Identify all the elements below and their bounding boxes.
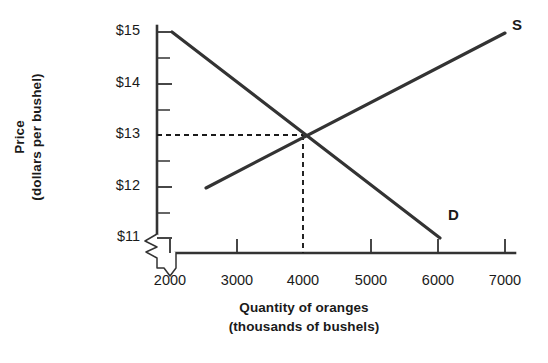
y-tick-label-14: $14	[88, 74, 140, 90]
x-tick-label-3000: 3000	[207, 272, 267, 288]
x-tick-label-2000: 2000	[140, 272, 200, 288]
y-tick-label-12: $12	[88, 177, 140, 193]
y-tick-label-13: $13	[88, 125, 140, 141]
axis-break-symbol	[145, 234, 176, 276]
y-axis-title: Price (dollars per bushel)	[11, 47, 45, 227]
y-tick-label-11: $11	[88, 228, 140, 244]
supply-curve-label: S	[512, 16, 522, 33]
supply-demand-chart: $15 $14 $13 $12 $11 2000 3000 4000 5000 …	[0, 0, 548, 363]
x-axis-title-line2: (thousands of bushels)	[134, 317, 474, 336]
y-axis-title-line2: (dollars per bushel)	[28, 47, 45, 227]
x-tick-label-7000: 7000	[475, 272, 535, 288]
y-tick-label-15: $15	[88, 22, 140, 38]
x-tick-label-5000: 5000	[341, 272, 401, 288]
x-tick-label-6000: 6000	[408, 272, 468, 288]
y-axis-title-line1: Price	[11, 47, 28, 227]
demand-curve-label: D	[448, 206, 459, 223]
x-axis-title-line1: Quantity of oranges	[134, 298, 474, 317]
x-axis-title: Quantity of oranges (thousands of bushel…	[134, 298, 474, 336]
x-axis-ticks	[170, 239, 505, 253]
x-tick-label-4000: 4000	[273, 272, 333, 288]
supply-curve	[206, 33, 505, 188]
